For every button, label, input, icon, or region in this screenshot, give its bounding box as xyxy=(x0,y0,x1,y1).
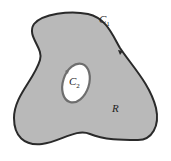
label-region-r: R xyxy=(112,103,119,114)
region-svg xyxy=(0,0,171,161)
region-diagram: C1 C2 R xyxy=(0,0,171,161)
label-c2: C2 xyxy=(69,76,80,90)
label-c1: C1 xyxy=(99,14,110,28)
